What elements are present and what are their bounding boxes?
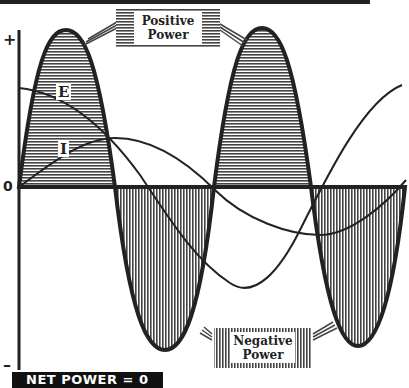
current-label: I [58,141,69,157]
net-power-label: NET POWER = 0 [12,372,163,388]
positive-power-lobe-2 [214,28,311,187]
axis-plus-label: + [3,30,16,49]
axis-zero-label: 0 [3,178,13,194]
positive-power-line1: Positive [134,14,202,28]
axis-minus-label: – [3,355,11,374]
voltage-label: E [56,84,71,100]
negative-power-line1: Negative [231,334,295,348]
negative-power-line2: Power [231,348,295,362]
top-border [0,0,370,4]
positive-power-line2: Power [134,28,202,42]
negative-power-lobe-2 [311,187,405,346]
negative-power-callout: Negative Power [231,332,295,363]
positive-power-lobe-1 [19,30,115,187]
positive-power-callout: Positive Power [134,12,202,44]
